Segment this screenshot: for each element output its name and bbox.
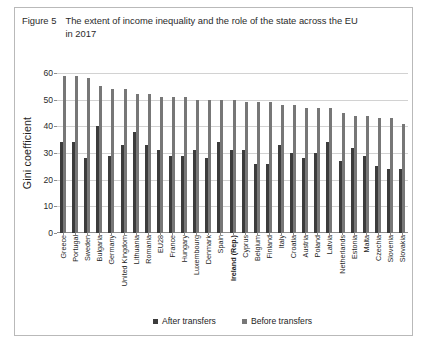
x-axis-label-text: Ireland (Rep.): [228, 235, 237, 281]
x-axis-label: Slovakia: [396, 235, 408, 315]
bar-before-transfers: [245, 102, 248, 233]
bar-before-transfers: [329, 108, 332, 233]
bar-before-transfers: [87, 78, 90, 233]
bar-group: [251, 73, 263, 233]
x-axis-label-text: Finland: [264, 235, 273, 259]
chart-legend: After transfersBefore transfers: [57, 316, 408, 326]
bar-group: [130, 73, 142, 233]
x-axis-label-text: Bulgaria: [95, 235, 104, 261]
x-axis-label: Lithuania: [130, 235, 142, 315]
bar-group: [311, 73, 323, 233]
x-axis-label: Estonia: [348, 235, 360, 315]
x-axis-label: Malta: [360, 235, 372, 315]
bar-before-transfers: [160, 97, 163, 233]
bar-before-transfers: [390, 118, 393, 233]
bar-group: [93, 73, 105, 233]
bar-group: [202, 73, 214, 233]
x-axis-label-text: Austria: [301, 235, 310, 257]
bar-group: [178, 73, 190, 233]
x-axis-label: Greece: [57, 235, 69, 315]
x-axis-label-text: EU28: [155, 235, 164, 253]
x-axis-label-text: Belgium: [252, 235, 261, 261]
bar-group: [154, 73, 166, 233]
x-axis-label-text: Latvia: [325, 235, 334, 254]
y-tick-label: 30: [43, 148, 53, 158]
x-axis-label-text: Croatia: [289, 235, 298, 258]
bar-before-transfers: [208, 100, 211, 233]
bar-group: [57, 73, 69, 233]
x-axis-label: Austria: [299, 235, 311, 315]
x-axis-label: Portugal: [69, 235, 81, 315]
bar-series-container: [57, 73, 408, 233]
y-axis-title: Gini coefficient: [20, 73, 34, 233]
bar-before-transfers: [233, 100, 236, 233]
x-axis-label: Netherlands: [336, 235, 348, 315]
bar-group: [263, 73, 275, 233]
bar-before-transfers: [75, 76, 78, 233]
x-axis-label-text: Luxembourg: [192, 235, 201, 275]
x-axis-label-text: Netherlands: [337, 235, 346, 274]
x-axis-labels: GreecePortugalSwedenBulgariaGermanyUnite…: [57, 235, 408, 315]
x-axis-label-text: Sweden: [83, 235, 92, 261]
x-axis-label-text: Poland: [313, 235, 322, 257]
bar-group: [239, 73, 251, 233]
bar-group: [372, 73, 384, 233]
x-axis-label-text: Greece: [59, 235, 68, 259]
bar-before-transfers: [148, 94, 151, 233]
bar-group: [190, 73, 202, 233]
bar-group: [166, 73, 178, 233]
x-axis-label-text: Spain: [216, 235, 225, 253]
y-tick-label: 40: [43, 121, 53, 131]
x-axis-label: Romania: [142, 235, 154, 315]
bar-before-transfers: [184, 97, 187, 233]
bar-before-transfers: [99, 86, 102, 233]
bar-chart: Gini coefficient 0102030405060 GreecePor…: [0, 0, 427, 351]
bar-before-transfers: [136, 94, 139, 233]
bar-group: [105, 73, 117, 233]
bar-before-transfers: [342, 113, 345, 233]
bar-group: [384, 73, 396, 233]
x-axis-label-text: Slovenia: [386, 235, 395, 263]
y-tick-label: 20: [43, 175, 53, 185]
x-axis-label: EU28: [154, 235, 166, 315]
bar-before-transfers: [196, 100, 199, 233]
bar-group: [118, 73, 130, 233]
legend-label: Before transfers: [251, 316, 312, 326]
x-axis-label: Latvia: [323, 235, 335, 315]
legend-item: After transfers: [153, 316, 216, 326]
x-axis-label-text: Cyprus: [240, 235, 249, 258]
x-axis-label: Belgium: [251, 235, 263, 315]
bar-before-transfers: [354, 116, 357, 233]
bar-before-transfers: [378, 118, 381, 233]
bar-group: [348, 73, 360, 233]
x-axis-label-text: Germany: [107, 235, 116, 265]
bar-before-transfers: [257, 102, 260, 233]
bar-before-transfers: [305, 108, 308, 233]
bar-before-transfers: [269, 102, 272, 233]
y-tick-label: 0: [48, 228, 53, 238]
x-axis-label: Ireland (Rep.): [227, 235, 239, 315]
x-axis-label-text: Romania: [143, 235, 152, 264]
y-tick-label: 50: [43, 95, 53, 105]
bar-before-transfers: [63, 76, 66, 233]
bar-before-transfers: [317, 108, 320, 233]
legend-swatch: [153, 319, 158, 324]
y-tick-label: 10: [43, 201, 53, 211]
bar-before-transfers: [124, 89, 127, 233]
x-axis-label-text: Malta: [361, 235, 370, 253]
bar-group: [214, 73, 226, 233]
bar-group: [227, 73, 239, 233]
x-axis-label: Spain: [214, 235, 226, 315]
plot-area: 0102030405060: [57, 73, 408, 233]
x-axis-label: Cyprus: [239, 235, 251, 315]
x-axis-label: Bulgaria: [93, 235, 105, 315]
x-axis-label: Germany: [105, 235, 117, 315]
x-axis-label: Slovenia: [384, 235, 396, 315]
x-axis-label-text: Czechia: [373, 235, 382, 261]
y-tick-mark: [54, 233, 57, 234]
x-axis-label-text: France: [168, 235, 177, 257]
x-axis-label: Luxembourg: [190, 235, 202, 315]
x-axis-label-text: Italy: [277, 235, 286, 248]
bar-group: [360, 73, 372, 233]
bar-group: [323, 73, 335, 233]
